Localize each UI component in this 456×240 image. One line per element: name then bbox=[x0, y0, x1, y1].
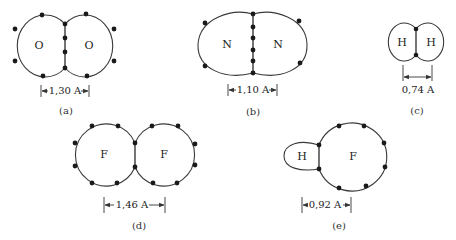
molecule-f2: F F 1,46 A (d) bbox=[73, 124, 198, 231]
atom-label: F bbox=[100, 148, 108, 161]
figure-caption: (d) bbox=[132, 220, 146, 231]
atom-label: N bbox=[273, 38, 283, 51]
molecule-hf: H F 0,92 A (e) bbox=[284, 123, 387, 231]
molecule-diagram: O O 1,30 A (a) N N bbox=[0, 0, 456, 240]
bond-length-label: 1,30 A bbox=[49, 85, 82, 96]
figure-caption: (e) bbox=[332, 220, 346, 231]
bond-length-label: 0,74 A bbox=[402, 84, 435, 95]
atom-label: N bbox=[222, 38, 232, 51]
atom-label: O bbox=[34, 39, 43, 52]
figure-caption: (c) bbox=[410, 105, 424, 116]
figure-caption: (b) bbox=[246, 106, 260, 117]
atom-label: O bbox=[84, 39, 93, 52]
bond-length-label: 1,10 A bbox=[237, 84, 270, 95]
bond-length-dimension bbox=[403, 65, 432, 81]
bond-length-label: 1,46 A bbox=[116, 199, 149, 210]
atom-label: H bbox=[297, 150, 307, 163]
atom-label: H bbox=[426, 36, 436, 49]
bond-length-label: 0,92 A bbox=[309, 199, 342, 210]
atom-label: F bbox=[160, 148, 168, 161]
molecule-h2: H H 0,74 A (c) bbox=[388, 23, 443, 116]
molecule-n2: N N 1,10 A (b) bbox=[198, 12, 307, 117]
molecule-o2: O O 1,30 A (a) bbox=[13, 12, 117, 116]
atom-label: F bbox=[349, 150, 357, 163]
figure-caption: (a) bbox=[59, 105, 73, 116]
atom-label: H bbox=[397, 36, 407, 49]
